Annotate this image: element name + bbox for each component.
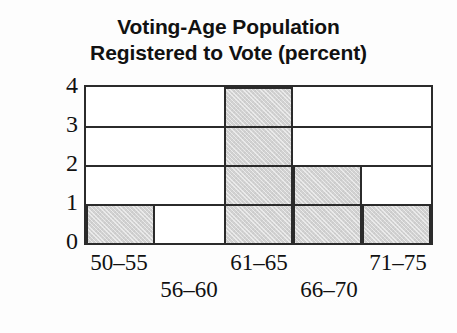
x-tick-label-56-60: 56–60 xyxy=(134,277,244,303)
gridline-2 xyxy=(86,165,431,167)
y-tick-label-1: 1 xyxy=(52,190,78,214)
x-axis-tick-labels: 50–55 56–60 61–65 66–70 71–75 xyxy=(84,250,433,320)
y-tick-label-4: 4 xyxy=(52,73,78,97)
y-axis-tick-labels: 4 3 2 1 0 xyxy=(48,0,78,333)
histogram-figure: Voting-Age Population Registered to Vote… xyxy=(0,0,457,333)
x-tick-label-66-70: 66–70 xyxy=(274,277,384,303)
bar-50-55 xyxy=(86,204,155,243)
gridline-3 xyxy=(86,126,431,128)
y-tick-label-3: 3 xyxy=(52,112,78,136)
gridline-1 xyxy=(86,204,431,206)
y-tick-label-2: 2 xyxy=(52,151,78,175)
bar-71-75 xyxy=(362,204,431,243)
x-tick-label-50-55: 50–55 xyxy=(64,250,174,276)
x-tick-label-71-75: 71–75 xyxy=(343,250,453,276)
x-tick-label-61-65: 61–65 xyxy=(204,250,314,276)
plot-area xyxy=(84,85,433,245)
